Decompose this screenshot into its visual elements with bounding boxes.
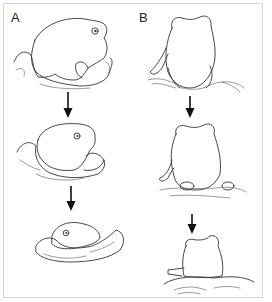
arrow-icon xyxy=(186,96,195,118)
frog-side-stage-3 xyxy=(36,223,123,263)
figure-illustration xyxy=(0,0,272,302)
frog-rear-stage-2 xyxy=(160,124,246,198)
arrow-icon xyxy=(64,92,73,118)
frog-rear-stage-3 xyxy=(164,236,254,294)
arrow-icon xyxy=(188,214,197,234)
frog-side-stage-2 xyxy=(17,124,105,181)
frog-side-stage-1 xyxy=(14,18,112,88)
arrow-icon xyxy=(67,186,76,211)
frog-rear-stage-1 xyxy=(148,16,244,92)
